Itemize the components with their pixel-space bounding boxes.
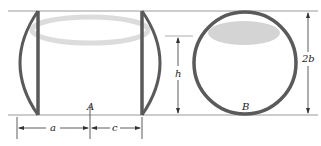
arrow-icon bbox=[176, 37, 180, 43]
dim-a-label: a bbox=[50, 122, 56, 133]
container-b-label: B bbox=[241, 101, 249, 112]
dim-h-label: h bbox=[175, 68, 181, 79]
arrow-icon bbox=[83, 126, 89, 130]
dim-c-label: c bbox=[112, 122, 118, 133]
container-b: B bbox=[194, 12, 296, 114]
arrow-icon bbox=[176, 108, 180, 114]
arrow-icon bbox=[18, 126, 24, 130]
tank-diagram: A a c h B 2b bbox=[0, 0, 321, 146]
arrow-icon bbox=[306, 12, 310, 18]
arrow-icon bbox=[135, 126, 141, 130]
liquid-surface bbox=[208, 21, 280, 45]
arrow-icon bbox=[306, 108, 310, 114]
liquid-surface-ring bbox=[32, 17, 148, 43]
arrow-icon bbox=[91, 126, 97, 130]
dim-2b-label: 2b bbox=[301, 53, 315, 64]
container-a: A bbox=[20, 11, 160, 115]
